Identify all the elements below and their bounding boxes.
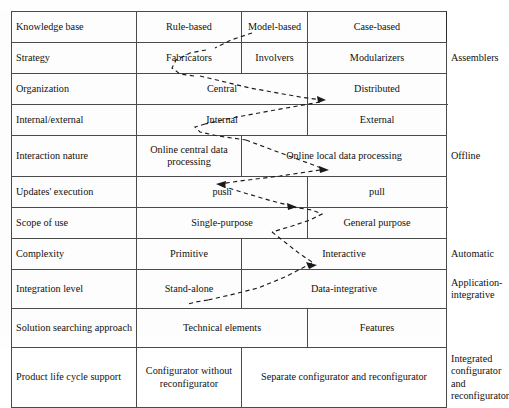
option-cell[interactable]: Fabricators bbox=[137, 43, 242, 74]
row-label-integration-level: Integration level bbox=[12, 270, 137, 309]
table-row: Interaction nature Online central data p… bbox=[12, 136, 447, 177]
option-cell[interactable]: Involvers bbox=[242, 43, 308, 74]
option-cell[interactable]: Single-purpose bbox=[137, 208, 308, 239]
option-cell[interactable]: Distributed bbox=[308, 74, 447, 105]
row-label-complexity: Complexity bbox=[12, 239, 137, 270]
option-cell[interactable]: Case-based bbox=[308, 12, 447, 43]
table-row: Internal/external Internal External bbox=[12, 105, 447, 136]
option-cell[interactable]: Online central data processing bbox=[137, 136, 242, 177]
table-row: Scope of use Single-purpose General purp… bbox=[12, 208, 447, 239]
table-row: Knowledge base Rule-based Model-based Ca… bbox=[12, 12, 447, 43]
row-label-organization: Organization bbox=[12, 74, 137, 105]
option-cell[interactable]: Configurator without reconfigurator bbox=[137, 348, 242, 408]
morphological-matrix-table: Knowledge base Rule-based Model-based Ca… bbox=[11, 11, 447, 408]
table-row: Product life cycle support Configurator … bbox=[12, 348, 447, 408]
table-row: Solution searching approach Technical el… bbox=[12, 309, 447, 348]
morphological-matrix-wrapper: Knowledge base Rule-based Model-based Ca… bbox=[11, 11, 411, 333]
option-cell[interactable]: Stand-alone bbox=[137, 270, 242, 309]
row-label-strategy: Strategy bbox=[12, 43, 137, 74]
option-cell[interactable]: Rule-based bbox=[137, 12, 242, 43]
table-row: Strategy Fabricators Involvers Modulariz… bbox=[12, 43, 447, 74]
row-label-product-life-cycle-support: Product life cycle support bbox=[12, 348, 137, 408]
option-cell[interactable]: Internal bbox=[137, 105, 308, 136]
table-row: Complexity Primitive Interactive Automat… bbox=[12, 239, 447, 270]
option-cell[interactable]: Central bbox=[137, 74, 308, 105]
option-cell[interactable]: Features bbox=[308, 309, 447, 348]
row-label-scope-of-use: Scope of use bbox=[12, 208, 137, 239]
option-cell[interactable]: Primitive bbox=[137, 239, 242, 270]
row-label-internal-external: Internal/external bbox=[12, 105, 137, 136]
option-cell[interactable]: push bbox=[137, 177, 308, 208]
matrix-body: Knowledge base Rule-based Model-based Ca… bbox=[12, 12, 447, 408]
row-label-knowledge-base: Knowledge base bbox=[12, 12, 137, 43]
option-cell[interactable]: Modularizers bbox=[308, 43, 447, 74]
row-label-updates-execution: Updates' execution bbox=[12, 177, 137, 208]
option-cell[interactable]: Separate configurator and reconfigurator bbox=[242, 348, 447, 408]
option-cell[interactable]: Interactive bbox=[242, 239, 447, 270]
option-cell[interactable]: Technical elements bbox=[137, 309, 308, 348]
row-label-interaction-nature: Interaction nature bbox=[12, 136, 137, 177]
row-label-solution-searching-approach: Solution searching approach bbox=[12, 309, 137, 348]
option-cell[interactable]: Online local data processing bbox=[242, 136, 447, 177]
table-row: Integration level Stand-alone Data-integ… bbox=[12, 270, 447, 309]
option-cell[interactable]: General purpose bbox=[308, 208, 447, 239]
option-cell[interactable]: External bbox=[308, 105, 447, 136]
option-cell[interactable]: pull bbox=[308, 177, 447, 208]
page-top-margin bbox=[0, 0, 441, 11]
table-row: Organization Central Distributed bbox=[12, 74, 447, 105]
option-cell[interactable]: Data-integrative bbox=[242, 270, 447, 309]
table-row: Updates' execution push pull bbox=[12, 177, 447, 208]
option-cell[interactable]: Model-based bbox=[242, 12, 308, 43]
